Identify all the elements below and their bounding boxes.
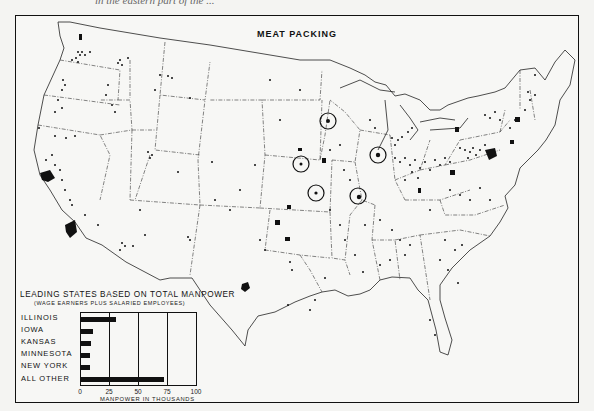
- tick-75: 75: [163, 388, 170, 395]
- row-label-iowa: IOWA: [21, 325, 44, 334]
- bar-new-york: [81, 365, 90, 370]
- row-label-all-other: ALL OTHER: [21, 374, 70, 383]
- bar-minnesota: [81, 353, 90, 358]
- state-borders: [38, 42, 535, 300]
- row-label-new-york: NEW YORK: [21, 361, 68, 370]
- gridline-25: [109, 313, 110, 385]
- row-label-kansas: KANSAS: [21, 337, 56, 346]
- legend-subtitle: (WAGE EARNERS PLUS SALARIED EMPLOYEES): [34, 300, 185, 306]
- gridline-50: [138, 313, 139, 385]
- gridline-75: [167, 313, 168, 385]
- map-title: MEAT PACKING: [0, 29, 594, 39]
- tick-25: 25: [105, 388, 112, 395]
- concentration-shapes: [40, 34, 520, 292]
- manpower-legend-chart: LEADING STATES BASED ON TOTAL MANPOWER (…: [16, 290, 226, 402]
- bar-kansas: [81, 341, 91, 346]
- tick-0: 0: [78, 388, 82, 395]
- bar-plot-area: [80, 312, 197, 386]
- legend-title: LEADING STATES BASED ON TOTAL MANPOWER: [20, 290, 235, 299]
- x-axis-label: MANPOWER IN THOUSANDS: [100, 396, 195, 402]
- great-lakes: [340, 80, 468, 150]
- tick-50: 50: [134, 388, 141, 395]
- bar-all-other: [81, 377, 164, 382]
- row-label-minnesota: MINNESOTA: [21, 349, 72, 358]
- bar-iowa: [81, 329, 93, 334]
- bar-illinois: [81, 317, 116, 322]
- row-label-illinois: ILLINOIS: [21, 313, 58, 322]
- tick-100: 100: [191, 388, 202, 395]
